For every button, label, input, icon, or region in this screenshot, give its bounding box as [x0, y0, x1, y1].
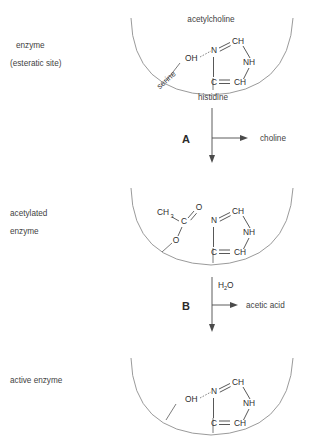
label-esteratic-site: (esteratic site): [10, 59, 62, 68]
label-active-enzyme: active enzyme: [10, 376, 63, 385]
label-acetylated: acetylated: [10, 209, 48, 218]
atom-nh-imidazole: NH: [243, 398, 255, 408]
bond-nh-ch: [244, 238, 250, 249]
label-water-o: O: [227, 280, 234, 290]
atom-ch-top: CH: [232, 206, 244, 216]
atom-nh-imidazole: NH: [243, 57, 255, 67]
atom-n-imidazole: N: [211, 386, 217, 396]
hydrogen-bond-oh-n: [200, 392, 211, 398]
atom-c-imidazole: C: [211, 77, 217, 87]
step-b-letter: B: [182, 300, 190, 312]
label-acetylated-enzyme: enzyme: [10, 227, 39, 236]
label-histidine: histidine: [198, 93, 228, 102]
hydrogen-bond-oh-n: [200, 51, 211, 57]
label-acetylcholine: acetylcholine: [187, 15, 235, 24]
label-acetic-acid: acetic acid: [246, 301, 285, 310]
atom-ch-bottom: CH: [234, 418, 246, 428]
step-b-branch-arrow-head: [230, 302, 238, 308]
bond-oester-c: [178, 227, 182, 236]
panel-enzyme: acetylcholine enzyme (esteratic site) se…: [10, 15, 293, 102]
panel-acetylated: acetylated enzyme O C O CH 3 N CH NH: [10, 188, 293, 265]
bond-nh-ch: [244, 409, 250, 420]
atom-oh-serine: OH: [185, 53, 198, 63]
diagram-root: acetylcholine enzyme (esteratic site) se…: [0, 0, 312, 439]
atom-ch3: CH: [157, 207, 169, 217]
atom-c-imidazole: C: [211, 247, 217, 257]
step-a: A choline: [182, 108, 286, 163]
atom-n-imidazole: N: [211, 215, 217, 225]
label-choline: choline: [260, 134, 286, 143]
panel-active: active enzyme OH N CH NH CH C: [10, 358, 293, 435]
label-serine: serine: [155, 69, 178, 91]
step-b-arrow-head: [209, 324, 215, 332]
atom-o-ester: O: [173, 235, 180, 245]
atom-c-imidazole: C: [211, 418, 217, 428]
step-b: B H 2 O acetic acid: [182, 277, 285, 332]
step-a-branch-arrow-head: [240, 135, 248, 141]
atom-oh-serine: OH: [185, 394, 198, 404]
active-serine-stem: [166, 404, 176, 420]
step-a-letter: A: [182, 133, 190, 145]
label-enzyme: enzyme: [16, 41, 45, 50]
reaction-scheme-svg: acetylcholine enzyme (esteratic site) se…: [0, 0, 312, 439]
atom-ch-top: CH: [232, 36, 244, 46]
acetyl-serine-stem: [162, 243, 172, 252]
atom-ch-bottom: CH: [234, 77, 246, 87]
atom-n-imidazole: N: [211, 45, 217, 55]
atom-ch3-subscript: 3: [170, 213, 173, 219]
atom-o-carbonyl: O: [196, 202, 203, 212]
step-a-arrow-head: [209, 155, 215, 163]
atom-ch-top: CH: [232, 377, 244, 387]
atom-c-carbonyl: C: [181, 216, 187, 226]
atom-ch-bottom: CH: [234, 247, 246, 257]
atom-nh-imidazole: NH: [243, 227, 255, 237]
bond-nh-ch: [244, 68, 250, 79]
